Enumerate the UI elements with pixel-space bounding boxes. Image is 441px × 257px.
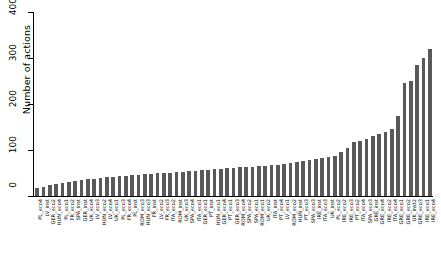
y-axis-tick-label: 400	[8, 0, 18, 24]
x-axis-tick-label-text: UK_eco4	[88, 199, 94, 221]
bar	[42, 187, 46, 196]
bar	[422, 58, 426, 196]
bar	[187, 171, 191, 196]
bar	[320, 158, 324, 196]
y-axis-tick-label: 100	[8, 136, 18, 162]
y-axis-tick	[28, 150, 33, 151]
x-axis-tick-label-text: LV_eco3	[94, 199, 100, 220]
x-axis-tick-label-text: GER_eco3	[234, 199, 240, 225]
x-axis-tick-label-text: GRE_eco3	[417, 199, 423, 225]
x-axis-tick-label-text: SPA_eco4	[189, 199, 195, 223]
x-axis-tick-label-text: PL_eco4	[37, 199, 43, 220]
bar	[257, 166, 261, 196]
bar	[270, 165, 274, 196]
bar	[244, 167, 248, 196]
x-axis-tick-label-text: UK_eco2	[265, 199, 271, 221]
bar	[251, 167, 255, 196]
bar	[35, 188, 39, 196]
bar	[73, 181, 77, 196]
x-axis-tick-label-text: IRE_eco4	[430, 199, 436, 222]
bar	[86, 179, 90, 196]
plot-area	[34, 12, 433, 196]
bar	[200, 170, 204, 196]
x-axis-tick-label-text: ROM_eco4	[240, 199, 246, 226]
bar	[263, 166, 267, 196]
bar	[308, 160, 312, 196]
x-axis-tick-label-text: LV_eco2	[158, 199, 164, 220]
bar	[358, 141, 362, 196]
x-axis-tick-label-text: GER_eco4	[221, 199, 227, 225]
bar	[219, 169, 223, 196]
x-axis-tick-label-text: HUN_eco1	[215, 199, 221, 225]
x-axis-tick-label-text: UK_inst	[329, 199, 335, 218]
x-axis-tick-label-text: ROM_eco2	[291, 199, 297, 226]
x-axis-tick-label-text: PT_eco4	[278, 199, 284, 220]
x-axis-tick-label-text: PL_eco2	[335, 199, 341, 220]
x-axis-tick-label-text: ROM_eco1	[259, 199, 265, 226]
y-axis-tick-label: 0	[8, 182, 18, 208]
bar	[80, 180, 84, 196]
bar-chart: Number of actions 0100200300400 PL_eco4L…	[0, 0, 441, 257]
bar	[99, 178, 103, 196]
bar	[409, 81, 413, 196]
x-axis-tick-label-text: UK_eco1	[113, 199, 119, 221]
bar	[225, 168, 229, 196]
x-axis-tick-label-text: GRE_eco1	[398, 199, 404, 225]
bar	[428, 49, 432, 196]
x-axis-tick-label-text: ITA_eco4	[360, 199, 366, 222]
x-axis-tick-label-text: IRE_eco2	[386, 199, 392, 222]
bar	[206, 170, 210, 196]
x-axis-tick-label-text: UK_eco3	[183, 199, 189, 221]
bar	[232, 168, 236, 196]
bar	[92, 179, 96, 196]
x-axis-tick-label-text: FR_eco2	[69, 199, 75, 220]
x-axis-tick-label-text: GER_inst	[82, 199, 88, 222]
bar	[181, 172, 185, 196]
x-axis-tick-label-text: LV_eco1	[284, 199, 290, 220]
bar	[333, 156, 337, 196]
bar	[143, 174, 147, 196]
bar	[162, 173, 166, 196]
bar	[327, 157, 331, 196]
y-axis-tick-label: 300	[8, 44, 18, 70]
bar	[396, 116, 400, 197]
x-axis-tick-label-text: HUN_eco4	[56, 199, 62, 225]
bar	[61, 183, 65, 196]
y-axis-tick-label: 200	[8, 90, 18, 116]
x-axis-tick-label-text: SPA_eco2	[246, 199, 252, 223]
x-axis-tick-label-text: GRE_inst	[373, 199, 379, 222]
x-axis-tick-label-text: PT_eco3	[303, 199, 309, 220]
x-axis-tick-label-text: SPA_eco3	[310, 199, 316, 223]
bar	[390, 129, 394, 196]
x-axis-tick-label-text: PL_eco3	[120, 199, 126, 220]
bar-series	[34, 12, 433, 196]
x-axis-tick-label-text: ITA_eco3	[322, 199, 328, 222]
bar	[282, 164, 286, 196]
bar	[118, 176, 122, 196]
y-axis-tick	[28, 104, 33, 105]
y-axis-tick	[28, 58, 33, 59]
x-axis-tick-label-text: HUN_eco3	[145, 199, 151, 225]
bar	[105, 177, 109, 196]
x-axis-tick-label-text: PT_eco2	[354, 199, 360, 220]
bar	[415, 65, 419, 196]
bar	[194, 171, 198, 196]
y-axis-tick	[28, 12, 33, 13]
bar	[276, 165, 280, 196]
bar	[149, 174, 153, 196]
bar	[48, 185, 52, 196]
x-axis-tick-label-text: ITA_eco4	[392, 199, 398, 222]
bar	[238, 167, 242, 196]
bar	[314, 159, 318, 196]
bar	[137, 175, 141, 196]
x-axis-tick-label-text: SPA_eco1	[253, 199, 259, 223]
x-axis-tick-label-text: IRE_eco3	[348, 199, 354, 222]
x-axis-tick-label-text: ROM_eco3	[139, 199, 145, 226]
x-axis-tick-label-text: PT_eco1	[227, 199, 233, 220]
y-axis-title: Number of actions	[21, 0, 32, 140]
bar	[301, 161, 305, 196]
x-axis-tick-label-text: SPA_eco3	[367, 199, 373, 223]
x-axis-tick-label-text: GER_eco2	[50, 199, 56, 225]
x-axis-tick-label-text: FR_inst	[151, 199, 157, 217]
x-axis-tick-label-text: IRE_eco1	[424, 199, 430, 222]
